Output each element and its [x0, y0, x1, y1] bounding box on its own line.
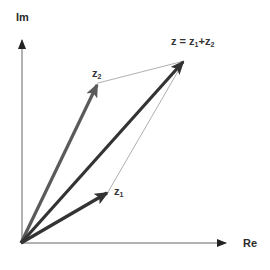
imaginary-axis-label: Im [16, 12, 29, 23]
vector-z [21, 62, 183, 243]
sum-label: z = z1+z2 [171, 36, 214, 48]
z1-label: z1 [114, 186, 123, 198]
complex-plane-diagram [0, 0, 270, 270]
z2-label: z2 [92, 68, 101, 80]
parallelogram-guides [98, 61, 184, 192]
real-axis-label: Re [243, 238, 257, 249]
